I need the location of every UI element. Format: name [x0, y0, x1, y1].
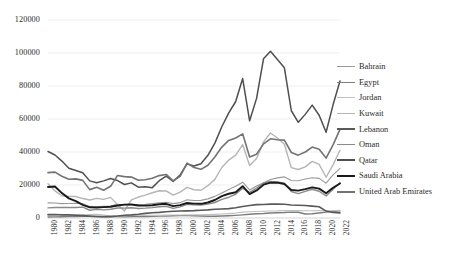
x-tick-label: 1984	[79, 220, 87, 235]
legend-line-icon	[337, 66, 355, 67]
legend-item-label: Qatar	[359, 156, 378, 165]
legend-line-icon	[337, 113, 355, 114]
x-tick-label: 1998	[176, 220, 184, 235]
legend-item-label: Bahrain	[359, 62, 386, 71]
x-tick-label: 1994	[149, 220, 157, 235]
legend-item-qatar[interactable]: Qatar	[337, 153, 453, 169]
x-tick-label: 2008	[246, 220, 254, 235]
plot-svg	[48, 20, 340, 218]
legend-line-icon	[337, 82, 355, 83]
legend-item-egypt[interactable]: Egypt	[337, 75, 453, 91]
x-tick-label: 1996	[162, 220, 170, 235]
x-tick-label: 1980	[51, 220, 59, 235]
legend-item-label: Jordan	[359, 93, 381, 102]
x-tick-label: 2018	[315, 220, 323, 235]
line-chart: 020000400006000080000100000120000 198019…	[0, 0, 454, 261]
x-tick-label: 2014	[288, 220, 296, 235]
y-axis: 020000400006000080000100000120000	[0, 0, 44, 238]
x-axis: 1980198219841986198819901992199419961998…	[48, 220, 340, 260]
x-tick-label: 2022	[343, 220, 351, 235]
legend-item-label: Egypt	[359, 78, 379, 87]
x-tick-label: 2016	[301, 220, 309, 235]
legend-item-saudi-arabia[interactable]: Saudi Arabia	[337, 168, 453, 184]
x-tick-label: 2010	[260, 220, 268, 235]
x-tick-label: 1986	[93, 220, 101, 235]
legend-line-icon	[337, 144, 355, 145]
series-line-bahrain	[48, 168, 340, 206]
x-tick-label: 1990	[121, 220, 129, 235]
legend-item-bahrain[interactable]: Bahrain	[337, 59, 453, 75]
legend-item-label: Saudi Arabia	[359, 171, 403, 180]
legend-item-oman[interactable]: Oman	[337, 137, 453, 153]
legend-line-icon	[337, 159, 355, 161]
series-line-kuwait	[48, 133, 340, 211]
y-tick-label: 100000	[15, 49, 40, 57]
legend-item-jordan[interactable]: Jordan	[337, 90, 453, 106]
series-lines	[48, 51, 340, 217]
x-tick-label: 1992	[135, 220, 143, 235]
legend-item-label: Kuwait	[359, 109, 384, 118]
legend-line-icon	[337, 175, 355, 177]
y-tick-label: 80000	[19, 82, 40, 90]
x-tick-label: 2020	[329, 220, 337, 235]
legend-item-label: United Arab Emirates	[359, 187, 432, 196]
x-tick-label: 2004	[218, 220, 226, 235]
legend-item-label: Lebanon	[359, 125, 388, 134]
y-tick-label: 40000	[19, 148, 40, 156]
legend-line-icon	[337, 97, 355, 98]
plot-area	[48, 20, 340, 218]
x-tick-label: 1982	[65, 220, 73, 235]
legend-item-lebanon[interactable]: Lebanon	[337, 121, 453, 137]
y-tick-label: 120000	[15, 16, 40, 24]
legend: BahrainEgyptJordanKuwaitLebanonOmanQatar…	[337, 59, 453, 199]
x-tick-label: 2006	[232, 220, 240, 235]
legend-item-label: Oman	[359, 140, 379, 149]
legend-item-united-arab-emirates[interactable]: United Arab Emirates	[337, 184, 453, 200]
y-tick-label: 60000	[19, 115, 40, 123]
legend-line-icon	[337, 128, 355, 130]
x-tick-label: 2002	[204, 220, 212, 235]
series-line-saudi-arabia	[48, 183, 340, 208]
x-tick-label: 2012	[274, 220, 282, 235]
y-tick-label: 0	[36, 214, 40, 222]
x-tick-label: 2000	[190, 220, 198, 235]
legend-line-icon	[337, 191, 355, 193]
x-tick-label: 1988	[107, 220, 115, 235]
y-tick-label: 20000	[19, 181, 40, 189]
legend-item-kuwait[interactable]: Kuwait	[337, 106, 453, 122]
